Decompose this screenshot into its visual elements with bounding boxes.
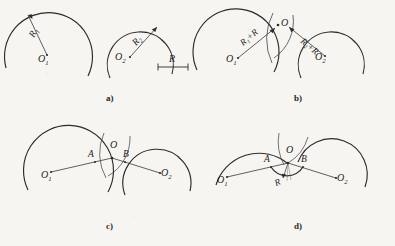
panel-d-fan-line-1 bbox=[288, 163, 291, 180]
panel-c-aux-arc-1 bbox=[100, 133, 106, 178]
panel-c-intersection-label: O bbox=[110, 139, 117, 150]
panel-d-fillet-arc bbox=[271, 167, 303, 176]
panel-c-tangent-a-label: A bbox=[87, 149, 94, 159]
panel-d-caption: d) bbox=[294, 221, 302, 231]
panel-b: R₁+R O1 R₂+R O2 O b) bbox=[193, 9, 364, 103]
panel-b-caption: b) bbox=[294, 93, 302, 103]
panel-d-intersection-dot bbox=[287, 162, 290, 165]
panel-d-center-1-label: O1 bbox=[217, 174, 228, 187]
panel-d-arc-2 bbox=[298, 139, 367, 187]
panel-a-caption: a) bbox=[106, 93, 114, 103]
panel-a-center-1-dot bbox=[46, 54, 48, 56]
panel-c-center-2-label: O2 bbox=[161, 167, 172, 180]
panel-c-line-o1-o bbox=[51, 158, 112, 172]
panel-b-radius-sum-1-label: R₁+R bbox=[237, 27, 260, 49]
panel-b-intersection-dot bbox=[277, 24, 280, 27]
fillet-construction-figure: R1 O1 R2 O2 R a) bbox=[0, 0, 395, 246]
panel-d-tangent-b-label: B bbox=[301, 154, 307, 164]
panel-c-line-o-o2 bbox=[112, 158, 160, 173]
panel-a-center-2-dot bbox=[129, 56, 131, 58]
panel-d-tangent-a-label: A bbox=[263, 154, 270, 164]
panel-a-arc-1 bbox=[5, 13, 93, 76]
panel-c-center-1-label: O1 bbox=[41, 169, 52, 182]
panel-d-line-o-o2 bbox=[288, 163, 336, 178]
panel-c-center-1-dot bbox=[50, 171, 52, 173]
panel-a-scale-bar-label: R bbox=[168, 53, 175, 64]
panel-b-center-2-label: O2 bbox=[315, 51, 326, 64]
panel-a-center-2-label: O2 bbox=[115, 51, 126, 64]
panel-c-tangent-a-dot bbox=[94, 161, 96, 163]
panel-a-radius-2-label: R2 bbox=[129, 33, 145, 49]
panel-c-tangent-b-dot bbox=[124, 161, 126, 163]
panel-b-center-1-dot bbox=[237, 57, 239, 59]
panel-d-center-2-label: O2 bbox=[337, 172, 348, 185]
panel-c-caption: c) bbox=[106, 221, 113, 231]
panel-b-intersection-label: O bbox=[281, 17, 288, 28]
panel-b-center-1-label: O1 bbox=[226, 53, 237, 66]
panel-a: R1 O1 R2 O2 R a) bbox=[5, 13, 188, 103]
panel-b-aux-arc-1 bbox=[267, 13, 273, 63]
panel-c-tangent-b-label: B bbox=[123, 149, 129, 159]
panel-d-center-1-dot bbox=[226, 176, 228, 178]
panel-d: O1 O2 O A B R d) bbox=[216, 133, 367, 231]
panel-d-tangent-a-dot bbox=[270, 166, 272, 168]
panel-d-fillet-radius-label: R bbox=[272, 176, 282, 188]
panel-c: O1 O2 O A B c) bbox=[24, 125, 191, 231]
panel-d-tangent-b-dot bbox=[302, 166, 304, 168]
panel-b-arrow-o2-o bbox=[289, 27, 295, 32]
panel-d-line-o1-o bbox=[227, 163, 288, 177]
panel-c-intersection-dot bbox=[111, 157, 114, 160]
panel-d-intersection-label: O bbox=[286, 144, 293, 155]
